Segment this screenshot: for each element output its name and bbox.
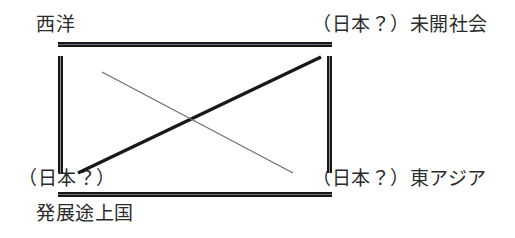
thin-diagonal-line: [102, 72, 293, 173]
label-caption-developing-countries: 発展途上国: [36, 201, 134, 225]
label-top-right-primitive-society: （日本？）未開社会: [312, 12, 488, 36]
frame-top-rule: [58, 41, 332, 47]
label-bottom-left-japan: （日本？）: [18, 166, 116, 190]
frame-bottom-rule: [58, 191, 332, 197]
label-top-left-western: 西洋: [36, 12, 75, 36]
label-bottom-right-east-asia: （日本？）東アジア: [312, 166, 487, 190]
diagram-canvas: 西洋 （日本？）未開社会 （日本？） （日本？）東アジア 発展途上国: [0, 0, 515, 238]
frame-left-rule: [58, 56, 63, 173]
frame-right-rule: [327, 56, 332, 173]
thick-diagonal-line: [78, 57, 321, 173]
